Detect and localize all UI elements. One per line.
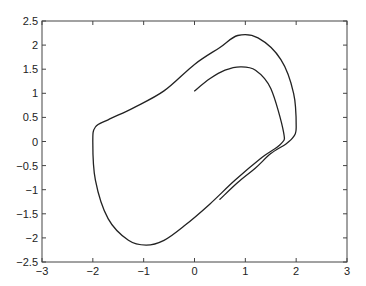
x-tick-label: 0 xyxy=(191,265,197,277)
y-tick-label: 1 xyxy=(32,87,38,99)
y-tick-label: −1 xyxy=(25,184,38,196)
y-tick-label: 2 xyxy=(32,39,38,51)
y-tick-label: −0.5 xyxy=(16,160,38,172)
y-tick-label: −2 xyxy=(25,232,38,244)
y-tick-label: −1.5 xyxy=(16,208,38,220)
y-tick-label: 1.5 xyxy=(23,63,38,75)
y-tick-label: 2.5 xyxy=(23,15,38,27)
y-tick-label: −2.5 xyxy=(16,256,38,268)
phase-plot: −3−2−10123 2.521.510.50−0.5−1−1.5−2−2.5 xyxy=(0,0,366,286)
y-tick-label: 0 xyxy=(32,136,38,148)
x-tick-label: 1 xyxy=(242,265,248,277)
x-tick-label: −2 xyxy=(87,265,100,277)
x-tick-label: 2 xyxy=(293,265,299,277)
x-tick-label: 3 xyxy=(344,265,350,277)
y-tick-label: 0.5 xyxy=(23,111,38,123)
plot-area xyxy=(42,21,347,262)
x-tick-label: −1 xyxy=(137,265,150,277)
